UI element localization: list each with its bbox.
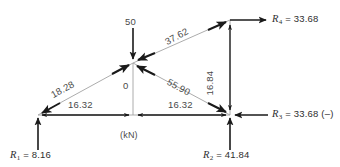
member-label-center-vertical: 0 xyxy=(123,81,128,91)
reaction-value-R1: = 8.16 xyxy=(20,149,51,160)
force-arrow-top-chord-upper xyxy=(208,22,226,30)
member-label-bottom-left: 16.32 xyxy=(68,100,93,110)
truss-force-diagram: 18.28 55.90 37.62 16.32 16.32 0 16.84 50… xyxy=(0,0,340,167)
member-label-right-vertical: 16.84 xyxy=(205,71,215,96)
reaction-label-R4: R4 = 33.68 xyxy=(272,14,319,26)
member-label-bottom-right: 16.32 xyxy=(168,100,193,110)
reaction-label-R1: R1 = 8.16 xyxy=(10,150,51,162)
reaction-value-R3: = 33.68 (–) xyxy=(282,108,333,119)
force-arrow-top-chord-lower xyxy=(138,53,155,60)
force-arrow-right-diagonal-lower xyxy=(208,103,226,112)
applied-load-label: 50 xyxy=(125,17,136,27)
reaction-symbol-R3: R xyxy=(272,108,279,119)
reaction-symbol-R1: R xyxy=(10,149,17,160)
reaction-symbol-R4: R xyxy=(272,13,279,24)
force-arrow-right-diagonal-upper xyxy=(137,66,155,75)
reaction-label-R2: R2 = 41.84 xyxy=(203,150,250,162)
reaction-value-R4: = 33.68 xyxy=(282,13,318,24)
reaction-symbol-R2: R xyxy=(203,149,210,160)
force-arrow-left-diagonal-lower xyxy=(42,103,60,113)
reaction-label-R3: R3 = 33.68 (–) xyxy=(272,109,334,121)
units-note: (kN) xyxy=(120,131,138,140)
force-arrow-left-diagonal-upper xyxy=(112,65,129,74)
reaction-value-R2: = 41.84 xyxy=(213,149,249,160)
